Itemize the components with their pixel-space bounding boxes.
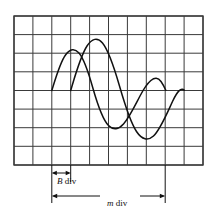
m-div-unit: div [114,198,128,208]
m-div-label: m div [107,199,127,208]
m-div-right-arrowhead [160,194,165,199]
figure-canvas [0,0,217,223]
m-div-left-arrowhead [52,194,57,199]
b-div-left-arrowhead [52,171,57,175]
b-div-unit: div [63,176,77,186]
b-div-right-arrowhead [66,171,71,175]
oscilloscope-graticule [14,16,203,165]
b-div-label: B div [57,177,76,186]
oscilloscope-phase-measurement-figure: B div m div [0,0,217,223]
